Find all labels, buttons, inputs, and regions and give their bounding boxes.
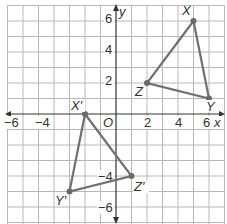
label-y-prime: Y′ [55, 193, 67, 208]
y-axis-label: y [118, 4, 127, 19]
x-axis-label: x [213, 115, 221, 130]
label-z: Z [134, 84, 144, 99]
tick-y-2: 2 [105, 73, 112, 88]
tick-y-6: 6 [105, 11, 112, 26]
origin-label: O [103, 115, 113, 130]
triangle-xyz: X Y Z [134, 3, 217, 114]
tick-y-neg6: −6 [98, 200, 113, 215]
coordinate-plane: −6 −4 O 2 4 6 x 6 y 4 2 −4 −6 X Y Z [0, 0, 227, 224]
point-y-prime [67, 189, 73, 195]
tick-x-neg6: −6 [4, 115, 19, 130]
tick-x-4: 4 [175, 115, 182, 130]
tick-x-2: 2 [144, 115, 151, 130]
label-z-prime: Z′ [133, 179, 145, 194]
label-x-prime: X′ [70, 98, 83, 113]
label-y: Y [206, 99, 216, 114]
point-z [144, 80, 150, 86]
tick-x-6: 6 [203, 115, 210, 130]
point-x [191, 18, 197, 24]
tick-x-neg4: −4 [35, 115, 50, 130]
tick-y-4: 4 [105, 42, 112, 57]
label-x: X [181, 3, 192, 18]
tick-labels: −6 −4 O 2 4 6 x 6 y 4 2 −4 −6 [3, 4, 223, 215]
